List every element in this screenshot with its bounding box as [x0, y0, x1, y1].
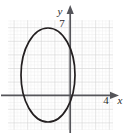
y-axis-arrowhead: [67, 5, 74, 14]
y-axis-label: y: [57, 5, 63, 17]
x-tick-label-4: 4: [103, 94, 109, 106]
graph-figure: y 7 4 x: [0, 0, 130, 136]
x-axis-label: x: [117, 94, 123, 106]
y-tick-label-7: 7: [59, 17, 65, 29]
grid-layer: [8, 20, 113, 130]
coordinate-plane-svg: y 7 4 x: [0, 0, 130, 136]
grid-rect: [8, 20, 113, 130]
